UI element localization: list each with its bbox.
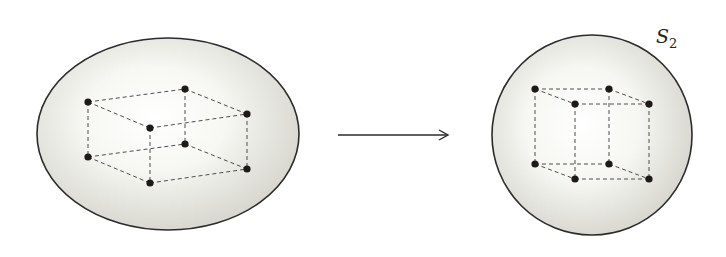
- right-cube-vertex-v6: [605, 160, 612, 167]
- left-cube-vertex-v4: [243, 110, 250, 117]
- left-cube-vertex-v5: [84, 153, 91, 160]
- sphere-label-main: S: [656, 25, 669, 47]
- right-cube-vertex-v4: [645, 100, 652, 107]
- right-cube-vertex-v7: [571, 175, 578, 182]
- right-cube-vertex-v5: [531, 160, 538, 167]
- left-cube-vertex-v2: [181, 85, 188, 92]
- left-cube-vertex-v1: [84, 98, 91, 105]
- right-cube-vertex-v8: [645, 175, 652, 182]
- diagram-canvas: S2: [0, 0, 726, 257]
- right-surface: S2: [492, 25, 692, 235]
- maps-to-arrow: [338, 130, 448, 140]
- right-circle-outline: [492, 35, 692, 235]
- right-cube-vertex-v2: [605, 85, 612, 92]
- diagram-svg: S2: [0, 0, 726, 257]
- sphere-label: S2: [656, 25, 677, 51]
- right-cube-vertex-v3: [571, 100, 578, 107]
- left-cube-vertex-v3: [146, 124, 153, 131]
- sphere-label-subscript: 2: [669, 36, 677, 51]
- left-cube-vertex-v8: [243, 165, 250, 172]
- left-cube-vertex-v7: [146, 179, 153, 186]
- left-surface: [37, 38, 299, 230]
- left-cube-vertex-v6: [181, 140, 188, 147]
- right-cube-vertex-v1: [531, 85, 538, 92]
- left-ellipse-outline: [37, 38, 299, 230]
